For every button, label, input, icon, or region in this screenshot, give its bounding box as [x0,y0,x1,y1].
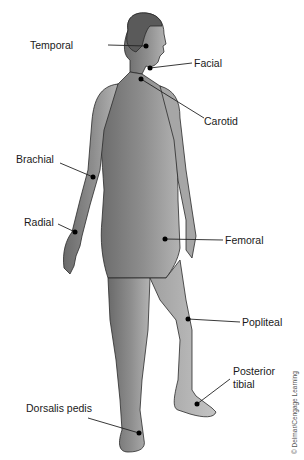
label-femoral: Femoral [225,234,264,246]
marker-temporal [144,44,149,49]
label-carotid: Carotid [204,115,238,127]
marker-popliteal [186,317,191,322]
label-brachial: Brachial [16,153,54,165]
label-radial: Radial [24,216,54,228]
copyright-credit: © Delmar/Cengage Learning [291,371,298,454]
label-popliteal: Popliteal [242,316,282,328]
marker-posterior-tibial [195,402,200,407]
marker-femoral [163,237,168,242]
right-leg [150,260,216,417]
label-dorsalis-pedis: Dorsalis pedis [26,402,92,414]
label-temporal: Temporal [30,39,73,51]
body-illustration [0,0,304,460]
label-posterior-tibial-line2: tibial [233,378,255,390]
pulse-sites-figure: Temporal Facial Carotid Brachial Radial … [0,0,304,460]
marker-brachial [91,175,96,180]
marker-dorsalis-pedis [137,431,142,436]
marker-radial [73,230,78,235]
marker-carotid [139,77,144,82]
label-posterior-tibial-line1: Posterior [233,365,275,377]
label-facial: Facial [194,57,222,69]
marker-facial [148,66,153,71]
